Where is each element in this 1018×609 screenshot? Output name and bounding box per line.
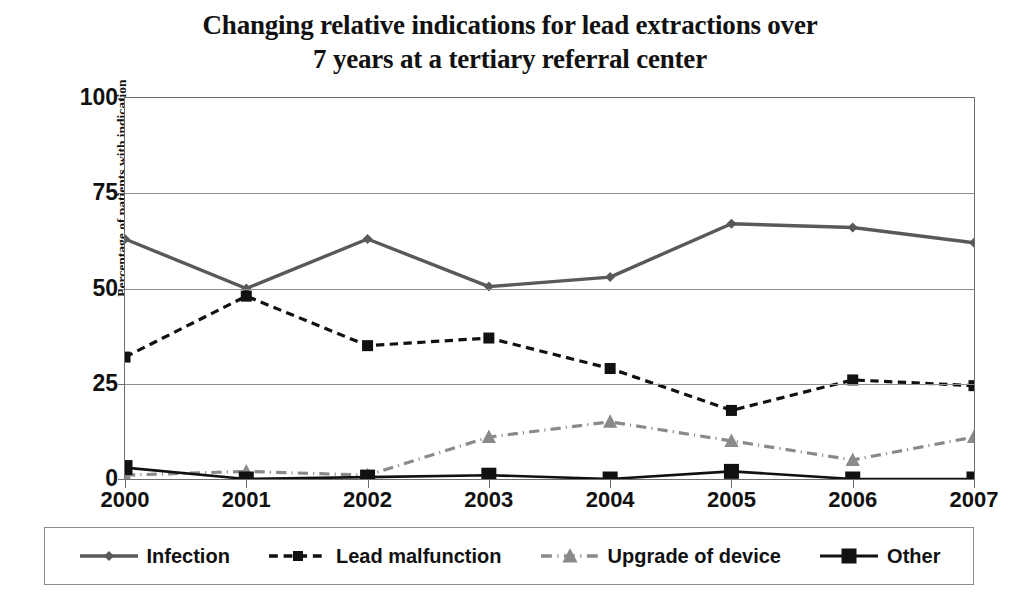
series-other [125, 460, 974, 479]
chart-legend: InfectionLead malfunctionUpgrade of devi… [44, 527, 974, 585]
x-tick-label-2003: 2003 [444, 489, 534, 511]
series-infection [125, 219, 974, 294]
series-upgrade-of-device [125, 414, 974, 479]
legend-item-lead-malfunction[interactable]: Lead malfunction [267, 545, 502, 568]
x-tick-label-2007: 2007 [929, 489, 1018, 511]
x-tick-label-2002: 2002 [323, 489, 413, 511]
data-point [969, 380, 975, 391]
legend-label: Lead malfunction [336, 545, 502, 568]
x-tick-label-2004: 2004 [565, 489, 655, 511]
y-tick-label-25: 25 [58, 372, 118, 395]
legend-label: Other [887, 545, 940, 568]
data-point [848, 223, 858, 233]
gridline-50 [125, 289, 974, 290]
gridline-25 [125, 384, 974, 385]
legend-swatch-square-filled-icon [818, 546, 880, 566]
y-tick-label-75: 75 [58, 181, 118, 204]
data-point [603, 472, 618, 480]
chart-figure: Changing relative indications for lead e… [0, 0, 1018, 609]
legend-item-upgrade-of-device[interactable]: Upgrade of device [539, 545, 781, 568]
data-point [483, 333, 494, 344]
data-point [241, 291, 252, 302]
chart-title-line-1: Changing relative indications for lead e… [60, 8, 960, 42]
gridline-75 [125, 193, 974, 194]
data-point [125, 460, 133, 475]
data-point [605, 363, 616, 374]
legend-swatch-triangle-icon [539, 546, 601, 566]
chart-title: Changing relative indications for lead e… [60, 8, 960, 76]
data-point [605, 272, 615, 282]
y-axis-ticks: 0255075100 [48, 97, 118, 480]
data-point [363, 234, 373, 244]
x-tick-label-2005: 2005 [686, 489, 776, 511]
x-tick-label-2001: 2001 [201, 489, 291, 511]
x-tick-label-2000: 2000 [80, 489, 170, 511]
y-tick-label-100: 100 [58, 86, 118, 109]
legend-swatch-diamond-icon [78, 546, 140, 566]
data-point [484, 282, 494, 292]
data-point [967, 430, 974, 444]
x-axis-ticks: 20002001200220032004200520062007 [124, 480, 975, 520]
series-line [125, 422, 974, 475]
series-line [125, 224, 974, 289]
legend-item-infection[interactable]: Infection [78, 545, 230, 568]
data-point [239, 472, 254, 480]
data-point [125, 352, 131, 363]
legend-label: Infection [147, 545, 230, 568]
data-point [967, 472, 975, 480]
data-point [969, 238, 974, 248]
data-point [726, 219, 736, 229]
data-point [360, 470, 375, 479]
data-point [362, 340, 373, 351]
chart-title-line-2: 7 years at a tertiary referral center [60, 42, 960, 76]
series-line [125, 296, 974, 410]
data-point [724, 464, 739, 479]
legend-swatch-square-icon [267, 546, 329, 566]
legend-items: InfectionLead malfunctionUpgrade of devi… [45, 528, 973, 584]
data-point [481, 468, 496, 479]
legend-label: Upgrade of device [608, 545, 781, 568]
data-point [726, 405, 737, 416]
data-point [845, 472, 860, 480]
series-lead-malfunction [125, 291, 974, 416]
legend-item-other[interactable]: Other [818, 545, 940, 568]
x-tick-label-2006: 2006 [808, 489, 898, 511]
y-tick-label-50: 50 [58, 277, 118, 300]
plot-area [124, 97, 975, 480]
